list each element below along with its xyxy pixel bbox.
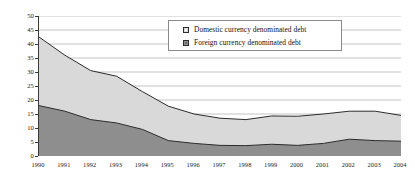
y-tick-label: 30 [8,69,34,76]
foreign-swatch-icon [183,40,189,46]
legend-item-foreign: Foreign currency denominated debt [183,37,341,49]
y-tick-label: 15 [8,111,34,118]
x-axis-labels: 1990199119921993199419951996199719981999… [0,160,415,174]
y-tick-label: 10 [8,125,34,132]
legend-item-domestic: Domestic currency denominated debt [183,24,341,36]
y-tick-label: 5 [8,139,34,146]
legend-label-domestic: Domestic currency denominated debt [194,26,306,33]
y-tick-label: 0 [8,153,34,160]
y-tick-label: 50 [8,13,34,20]
y-tick-label: 20 [8,97,34,104]
x-tick-label: 2004 [385,162,415,168]
area-series-group [39,37,401,156]
y-tick-label: 35 [8,55,34,62]
y-tick-label: 45 [8,27,34,34]
chart-legend: Domestic currency denominated debt Forei… [168,20,342,51]
y-tick-label: 25 [8,83,34,90]
legend-label-foreign: Foreign currency denominated debt [194,39,301,46]
y-tick-label: 40 [8,41,34,48]
domestic-swatch-icon [183,27,189,33]
y-tick-mark [35,156,38,157]
stacked-area-chart: 05101520253035404550 1990199119921993199… [0,0,415,175]
